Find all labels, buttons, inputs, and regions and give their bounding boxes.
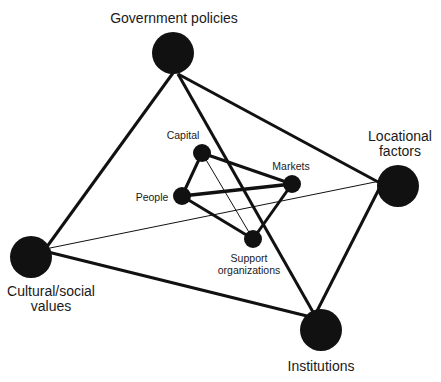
edge-mkt-sup — [253, 184, 292, 239]
label-locational-factors-line1: Locational — [368, 128, 432, 144]
node-locational-factors — [377, 165, 419, 207]
edges — [46, 73, 380, 316]
label-support-organizations-line2: organizations — [218, 264, 280, 276]
edge-loc-ins — [317, 187, 380, 311]
label-cultural-social-values-line1: Cultural/social — [7, 283, 95, 299]
label-locational-factors-line2: factors — [379, 143, 421, 159]
node-support-organizations — [244, 230, 262, 248]
node-capital — [193, 144, 211, 162]
label-support-organizations-line1: Support — [231, 252, 268, 264]
edge-gov-cul — [46, 73, 173, 248]
node-institutions — [300, 309, 342, 351]
label-government-policies: Government policies — [110, 10, 238, 26]
label-markets: Markets — [272, 160, 309, 172]
label-people: People — [136, 191, 169, 203]
node-people — [173, 187, 191, 205]
node-cultural-social-values — [10, 236, 52, 278]
label-institutions: Institutions — [288, 358, 355, 374]
node-markets — [283, 175, 301, 193]
node-government-policies — [152, 32, 194, 74]
network-diagram: Government policies Locational factors C… — [0, 0, 441, 382]
edge-ppl-mkt — [182, 184, 292, 196]
label-capital: Capital — [167, 129, 200, 141]
label-cultural-social-values-line2: values — [31, 298, 71, 314]
edge-cap-sup — [202, 153, 253, 239]
edge-ppl-sup — [182, 196, 253, 239]
